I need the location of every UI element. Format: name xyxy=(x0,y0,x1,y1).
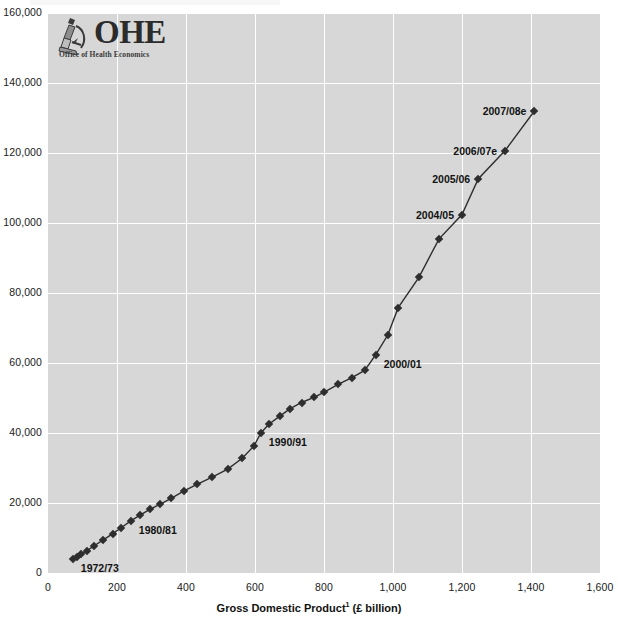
point-label: 2005/06 xyxy=(432,173,470,185)
y-axis-tick: 100,000 xyxy=(0,216,42,228)
gridline-vertical xyxy=(600,13,601,573)
y-axis-tick: 60,000 xyxy=(0,356,42,368)
point-label: 2000/01 xyxy=(384,358,422,370)
logo-tagline: Office of Health Economics xyxy=(59,50,149,59)
y-axis-tick: 120,000 xyxy=(0,146,42,158)
x-axis-tick: 1,600 xyxy=(570,581,618,593)
x-axis-tick: 1,000 xyxy=(363,581,423,593)
series-line xyxy=(48,13,600,573)
x-axis-tick: 600 xyxy=(225,581,285,593)
y-axis-tick: 20,000 xyxy=(0,496,42,508)
x-axis-tick: 800 xyxy=(294,581,354,593)
top-artifact xyxy=(30,0,280,5)
y-axis-tick: 140,000 xyxy=(0,76,42,88)
x-axis-tick: 1,400 xyxy=(501,581,561,593)
x-axis-tick: 0 xyxy=(18,581,78,593)
logo-wordmark: OHE xyxy=(94,16,166,49)
plot-area: 1972/731980/811990/912000/012004/052005/… xyxy=(48,13,600,573)
y-axis-tick: 80,000 xyxy=(0,286,42,298)
point-label: 2006/07e xyxy=(453,145,497,157)
point-label: 2007/08e xyxy=(483,105,527,117)
x-axis-tick: 1,200 xyxy=(432,581,492,593)
y-axis-tick: 0 xyxy=(0,566,42,578)
point-label: 2004/05 xyxy=(416,209,454,221)
point-label: 1972/73 xyxy=(81,562,119,574)
x-axis-tick: 400 xyxy=(156,581,216,593)
y-axis-tick: 160,000 xyxy=(0,6,42,18)
x-axis-title-unit: (£ billion) xyxy=(349,602,401,614)
point-label: 1990/91 xyxy=(269,436,307,448)
x-axis-title: Gross Domestic Product1 (£ billion) xyxy=(0,601,618,614)
x-axis-tick: 200 xyxy=(87,581,147,593)
point-label: 1980/81 xyxy=(139,524,177,536)
ohe-logo: OHE Office of Health Economics xyxy=(50,14,168,60)
y-axis-tick: 40,000 xyxy=(0,426,42,438)
x-axis-title-main: Gross Domestic Product xyxy=(217,602,346,614)
chart-root: 1972/731980/811990/912000/012004/052005/… xyxy=(0,0,618,618)
